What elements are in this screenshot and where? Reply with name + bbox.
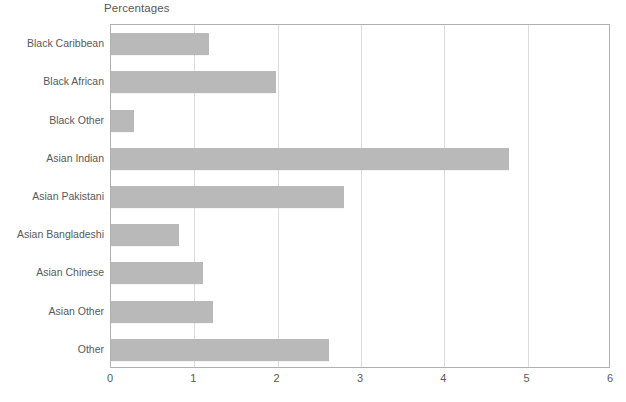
bar[interactable]	[111, 224, 179, 246]
bar[interactable]	[111, 262, 203, 284]
bar-row[interactable]	[111, 262, 611, 284]
bars-layer	[111, 25, 609, 367]
x-tick-label: 0	[107, 372, 113, 384]
bar[interactable]	[111, 110, 134, 132]
bar[interactable]	[111, 301, 213, 323]
category-label: Asian Chinese	[0, 266, 104, 278]
bar-row[interactable]	[111, 33, 611, 55]
bar[interactable]	[111, 339, 329, 361]
x-tick-label: 3	[357, 372, 363, 384]
x-tick-label: 6	[607, 372, 613, 384]
bar-row[interactable]	[111, 71, 611, 93]
category-label: Black Caribbean	[0, 37, 104, 49]
category-label: Other	[0, 343, 104, 355]
bar-chart: Percentages Black CaribbeanBlack African…	[0, 0, 626, 402]
plot-area	[110, 24, 610, 368]
bar[interactable]	[111, 186, 344, 208]
bar-row[interactable]	[111, 148, 611, 170]
value-axis-tick-labels: 0123456	[0, 372, 626, 392]
category-label: Black Other	[0, 114, 104, 126]
x-tick-label: 4	[440, 372, 446, 384]
x-tick-label: 2	[274, 372, 280, 384]
bar-row[interactable]	[111, 301, 611, 323]
bar-row[interactable]	[111, 339, 611, 361]
category-label: Black African	[0, 75, 104, 87]
category-label: Asian Other	[0, 305, 104, 317]
chart-title: Percentages	[104, 2, 170, 14]
category-label: Asian Bangladeshi	[0, 228, 104, 240]
bar-row[interactable]	[111, 110, 611, 132]
bar[interactable]	[111, 33, 209, 55]
x-tick-label: 1	[190, 372, 196, 384]
category-label: Asian Indian	[0, 152, 104, 164]
category-label: Asian Pakistani	[0, 190, 104, 202]
bar-row[interactable]	[111, 186, 611, 208]
category-axis-labels: Black CaribbeanBlack AfricanBlack OtherA…	[0, 24, 104, 368]
x-tick-label: 5	[524, 372, 530, 384]
bar-row[interactable]	[111, 224, 611, 246]
bar[interactable]	[111, 148, 509, 170]
bar[interactable]	[111, 71, 276, 93]
